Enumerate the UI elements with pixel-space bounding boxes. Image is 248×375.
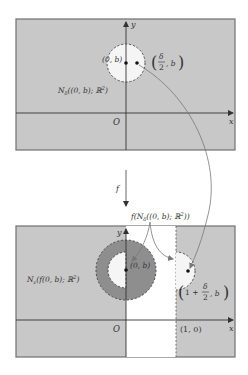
image-point-0-b bbox=[124, 268, 128, 272]
svg-text:, b: , b bbox=[166, 59, 176, 68]
svg-text:δ: δ bbox=[159, 52, 164, 61]
point-0-b bbox=[124, 61, 128, 65]
svg-text:2: 2 bbox=[159, 63, 164, 72]
bottom-point-label: (0, b) bbox=[130, 261, 150, 270]
svg-text:): ) bbox=[223, 283, 229, 302]
top-origin-label: O bbox=[113, 117, 120, 127]
point-delta-half-b bbox=[135, 61, 139, 65]
top-x-axis-label: x bbox=[229, 117, 234, 126]
svg-text:(: ( bbox=[151, 53, 157, 72]
bottom-panel: y x O (1, 0) (0, b) Nε(f(0, b); ℝ2) ( 1 … bbox=[16, 226, 235, 357]
svg-text:2: 2 bbox=[203, 293, 208, 302]
svg-text:f(Nδ((0, b); ℝ2)): f(Nδ((0, b); ℝ2)) bbox=[130, 211, 190, 222]
svg-text:1 +: 1 + bbox=[185, 288, 198, 297]
diagram-canvas: y x O (0, b) ( δ 2 , b ) Nδ((0, b); ℝ2) … bbox=[0, 0, 248, 375]
top-panel-background bbox=[16, 19, 235, 150]
svg-text:(: ( bbox=[178, 283, 184, 302]
svg-text:): ) bbox=[178, 53, 184, 72]
svg-text:δ: δ bbox=[203, 282, 208, 291]
bottom-y-axis-label: y bbox=[116, 228, 122, 237]
top-panel: y x O (0, b) ( δ 2 , b ) Nδ((0, b); ℝ2) bbox=[16, 19, 235, 150]
bottom-origin-label: O bbox=[113, 324, 120, 334]
top-y-axis-label: y bbox=[130, 20, 136, 29]
svg-text:, b: , b bbox=[210, 289, 220, 298]
unit-point-label: (1, 0) bbox=[180, 325, 202, 334]
map-f-label: f bbox=[115, 184, 121, 193]
bottom-x-axis-label: x bbox=[229, 324, 234, 333]
image-set-label: f(Nδ((0, b); ℝ2)) bbox=[130, 211, 190, 222]
top-point-label: (0, b) bbox=[102, 55, 122, 64]
image-point-1-plus-delta-half-b bbox=[186, 269, 190, 273]
